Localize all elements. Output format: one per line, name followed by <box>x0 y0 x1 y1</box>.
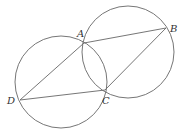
point-label-d: D <box>6 95 15 106</box>
labels-group: A B C D <box>6 23 177 106</box>
point-label-c: C <box>102 95 110 106</box>
segment-da <box>20 43 84 100</box>
segments-group <box>20 28 166 100</box>
diagram-canvas: A B C D <box>0 0 184 139</box>
segment-cd <box>20 90 105 100</box>
point-label-b: B <box>169 23 177 34</box>
point-label-a: A <box>76 28 84 39</box>
circles-group <box>15 6 174 128</box>
